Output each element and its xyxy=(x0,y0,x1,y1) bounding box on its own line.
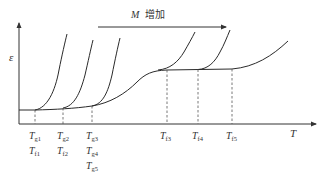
svg-text:Tf3: Tf3 xyxy=(160,130,171,142)
curve-m1 xyxy=(35,34,67,110)
tick-label-tg3-tg4-tg5: Tg3 Tg4 Tg5 xyxy=(86,130,99,172)
curve-m3-flow xyxy=(158,32,195,70)
svg-text:Tg1: Tg1 xyxy=(29,130,41,142)
arrow-label-text: 增加 xyxy=(145,8,165,20)
arrow-label-var: M xyxy=(130,9,140,20)
y-axis-label: ε xyxy=(9,51,14,63)
svg-text:Tg2: Tg2 xyxy=(57,130,69,142)
svg-text:Tf1: Tf1 xyxy=(29,145,40,157)
svg-text:Tf2: Tf2 xyxy=(57,145,68,157)
curve-m3 xyxy=(92,38,120,106)
svg-text:Tg3: Tg3 xyxy=(86,130,98,142)
tick-label-tg2-tf2: Tg2 Tf2 xyxy=(57,130,69,157)
svg-text:Tg5: Tg5 xyxy=(86,160,98,172)
curve-m4-flow xyxy=(198,30,230,70)
svg-text:Tf4: Tf4 xyxy=(192,130,204,142)
tick-label-tf4: Tf4 xyxy=(192,130,204,142)
curve-baseline xyxy=(19,41,288,110)
svg-text:Tf5: Tf5 xyxy=(226,130,237,142)
tick-label-tg1-tf1: Tg1 Tf1 xyxy=(29,130,41,157)
arrow-label: M 增加 xyxy=(130,8,165,20)
svg-text:Tg4: Tg4 xyxy=(86,145,99,157)
curve-m2 xyxy=(63,40,93,108)
deformation-temperature-diagram: ε T M 增加 Tg1 Tf1 Tg2 Tf2 Tg3 Tg4 Tg5 Tf3… xyxy=(0,0,323,176)
tick-label-tf5: Tf5 xyxy=(226,130,237,142)
tick-label-tf3: Tf3 xyxy=(160,130,171,142)
x-axis-label: T xyxy=(290,127,297,139)
